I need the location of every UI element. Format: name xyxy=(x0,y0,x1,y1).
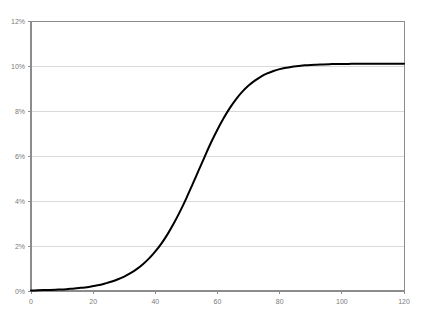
y-tick-label: 12% xyxy=(11,18,25,25)
y-tick-label: 8% xyxy=(15,108,25,115)
x-tick-label: 60 xyxy=(214,298,222,305)
y-tick-label: 4% xyxy=(15,198,25,205)
y-tick-label: 0% xyxy=(15,288,25,295)
x-tick-label: 120 xyxy=(398,298,410,305)
chart-background xyxy=(0,0,421,318)
x-tick-label: 20 xyxy=(89,298,97,305)
y-tick-label: 10% xyxy=(11,63,25,70)
x-tick-label: 80 xyxy=(276,298,284,305)
x-tick-label: 0 xyxy=(29,298,33,305)
x-tick-label: 100 xyxy=(336,298,348,305)
y-tick-label: 2% xyxy=(15,243,25,250)
logistic-line-chart: 0%2%4%6%8%10%12% 020406080100120 xyxy=(0,0,421,318)
x-tick-label: 40 xyxy=(151,298,159,305)
y-tick-label: 6% xyxy=(15,153,25,160)
chart-container: 0%2%4%6%8%10%12% 020406080100120 xyxy=(0,0,421,318)
